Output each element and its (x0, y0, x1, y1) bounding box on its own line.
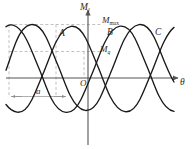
curve-b-wave (6, 25, 174, 113)
x-axis-label: θ (180, 78, 185, 88)
curves (6, 24, 174, 112)
level-label-mmax: Mmax (102, 16, 119, 25)
curve-a-wave (6, 25, 174, 111)
axes (6, 10, 178, 145)
dimension-label-a: a (36, 87, 41, 96)
level-label-mq: Mq (100, 45, 110, 54)
curve-label-c: C (155, 28, 161, 38)
origin-label: O (80, 79, 87, 88)
curve-label-a: A (59, 29, 65, 39)
figure-canvas (0, 0, 193, 149)
y-axis-label: Ml (80, 3, 90, 13)
waveform-figure: Ml Mmax Mq A B C O θ a (0, 0, 193, 149)
curve-label-b: B (107, 28, 113, 38)
